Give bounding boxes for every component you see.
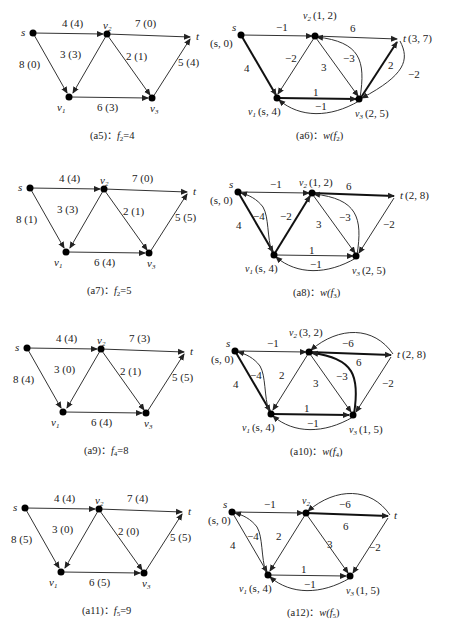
edge-s-v2 — [25, 508, 95, 509]
node-v1-label: v1 — [51, 416, 59, 430]
node-v3-label: v3(1, 5) — [346, 584, 380, 598]
node-v1 — [268, 411, 275, 418]
edge-v2-v3 — [102, 351, 144, 410]
edge-s-v2 — [27, 348, 97, 349]
edge-s-v2 — [241, 35, 312, 36]
node-v3-label: v3(1, 5) — [349, 423, 383, 437]
edge-v2-v1 — [73, 36, 106, 93]
edge-label: 5 (5) — [170, 531, 191, 544]
edge-label: 3 — [321, 61, 327, 73]
node-t-label: t — [196, 30, 200, 42]
edge-v2-v1 — [70, 191, 103, 248]
edge-label: 2 — [388, 59, 394, 71]
edge-s-v1 — [235, 351, 270, 411]
node-v2-label: v2(1, 2) — [299, 176, 333, 190]
node-t-label: t — [190, 345, 194, 357]
edge-v2-v1 — [273, 354, 308, 410]
node-t-label: t(2, 8) — [397, 348, 426, 361]
edge-label: −1 — [307, 417, 319, 429]
edge-label: −1 — [315, 100, 327, 112]
node-s-label: s — [226, 337, 230, 349]
edge-label: −4 — [253, 210, 265, 222]
caption-a12: (a12)：w(f5) — [287, 607, 340, 620]
node-t-label: t(2, 8) — [400, 189, 429, 202]
edge-label: −1 — [264, 498, 276, 510]
edge-label: 8 (5) — [11, 533, 32, 546]
node-v3 — [146, 250, 153, 257]
edge-label: −2 — [369, 541, 381, 553]
node-v2 — [309, 190, 316, 197]
node-v3-label: v3 — [144, 417, 153, 431]
node-v3 — [356, 96, 363, 103]
edge-label: 1 — [304, 402, 310, 414]
node-v3-label: v3(2, 5) — [355, 107, 389, 121]
edge-label: 2 — [276, 530, 282, 542]
node-v2-label: v2 — [302, 495, 310, 508]
edge-label: 3 — [313, 377, 319, 389]
node-v2-label: v2 — [97, 334, 106, 348]
edge-v1-v3 — [64, 412, 142, 413]
node-v1-label: v1 — [49, 576, 57, 590]
edge-v2-t — [101, 349, 184, 352]
node-s-label: s — [13, 501, 17, 513]
edge-label: −2 — [408, 68, 420, 80]
edge-label: 7 (0) — [132, 172, 153, 185]
edge-label: 1 — [313, 86, 319, 98]
edge-s-v2 — [232, 512, 303, 513]
edge-v2-t — [107, 34, 190, 37]
node-s — [22, 505, 29, 512]
edge-label: 6 — [343, 520, 349, 532]
edge-label: −2 — [280, 210, 292, 222]
edge-v2-v3 — [105, 191, 147, 250]
node-v2 — [303, 510, 310, 517]
edge-label: 8 (0) — [19, 58, 40, 71]
node-s — [27, 185, 34, 192]
node-v3 — [347, 573, 354, 580]
edge-label: −1 — [267, 337, 279, 349]
panel-a11: s t v2 v1 v3 4 (4) 7 (4) 8 (5) 3 (0) 2 (… — [11, 492, 192, 618]
node-s-mark: (s, 0) — [210, 37, 233, 50]
node-s-mark: (s, 0) — [210, 194, 233, 207]
edge-label: −1 — [310, 258, 322, 270]
node-v2-label: v2 — [95, 494, 104, 508]
node-v1-label: v1 — [54, 256, 62, 270]
edge-label: 3 (0) — [52, 523, 73, 536]
node-v3-label: v3(2, 5) — [352, 264, 386, 278]
edge-v3-v2 — [312, 353, 356, 414]
edge-v2-v1 — [270, 515, 305, 571]
edge-label: −6 — [342, 337, 354, 349]
node-v3 — [350, 412, 357, 419]
edge-label: 6 — [346, 180, 352, 192]
node-v1 — [63, 249, 70, 256]
panel-a7: s t v2 v1 v3 4 (4) 7 (0) 8 (1) 3 (3) 2 (… — [16, 172, 197, 298]
node-v1-label: v1 — [57, 101, 65, 115]
edge-label: 6 — [350, 22, 356, 34]
node-v1-label: v1(s, 4) — [242, 421, 275, 435]
edge-v1-v3 — [269, 575, 346, 576]
edge-label: 4 — [236, 219, 242, 231]
node-v2 — [312, 33, 319, 40]
edge-label: 4 (4) — [54, 492, 75, 505]
node-t-label: t — [193, 185, 197, 197]
node-v1 — [274, 95, 281, 102]
node-v2 — [306, 349, 313, 356]
edge-label: −4 — [250, 369, 262, 381]
edge-v2-t — [99, 509, 182, 512]
node-s-label: s — [229, 178, 233, 190]
edge-label: −2 — [383, 218, 395, 230]
edge-label: −1 — [270, 178, 282, 190]
edge-label: 6 (4) — [94, 256, 115, 269]
edge-label: 6 (3) — [97, 101, 118, 114]
node-s — [24, 345, 31, 352]
node-s-label: s — [18, 181, 22, 193]
edge-label: −2 — [382, 377, 394, 389]
edge-label: 1 — [301, 563, 307, 575]
node-v1-label: v1(s, 4) — [248, 105, 281, 119]
edge-label: 2 (1) — [123, 205, 144, 218]
node-s-label: s — [15, 341, 19, 353]
edge-v2-v3 — [108, 36, 150, 95]
edge-label: −3 — [343, 52, 355, 64]
edge-v2-v1 — [67, 351, 100, 408]
node-v2-label: v2(3, 2) — [289, 326, 323, 340]
edge-label: 5 (5) — [172, 371, 193, 384]
